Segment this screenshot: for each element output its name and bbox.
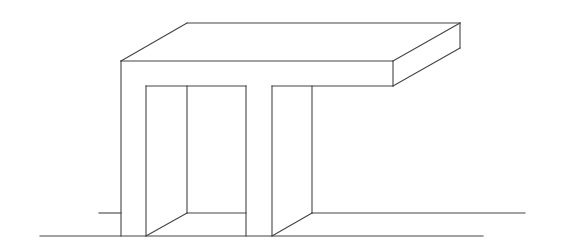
slab-right-bottom-diagonal-line [393, 48, 460, 86]
top-right-diagonal-line [393, 23, 460, 61]
opening-diagonal-line [146, 213, 187, 236]
top-left-diagonal-line [121, 23, 187, 61]
table-perspective-drawing [0, 0, 562, 252]
right-leg-diagonal-line [272, 213, 312, 236]
drawing-canvas [0, 0, 562, 252]
